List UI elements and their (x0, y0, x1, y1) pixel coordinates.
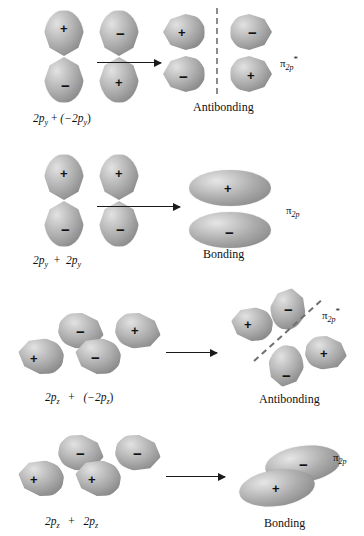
transformation-arrow (166, 476, 225, 477)
sign-plus: + (60, 167, 68, 180)
equation-right-subscript: y (78, 260, 82, 269)
equation-right-tail: ) (87, 112, 91, 124)
equation-right-term: (−2p (60, 112, 83, 124)
equation-left-subscript: z (57, 521, 60, 530)
mo-lobe-left (229, 304, 275, 344)
mo-label-pi-2p-star: π2p* (322, 306, 340, 324)
mo-label-subscript: 2p (339, 457, 347, 466)
sign-minus: − (116, 222, 125, 237)
sign-minus: − (282, 368, 291, 383)
mo-label-superscript: * (336, 306, 341, 316)
sign-minus: − (76, 446, 85, 461)
mo-label-subscript: 2p (286, 63, 294, 72)
sign-minus: − (116, 26, 125, 41)
transformation-arrow (97, 206, 180, 207)
sign-plus: + (30, 473, 38, 486)
diagram-row-antibonding-py: + − − + + − − + π2p* Antibonding (0, 0, 364, 134)
sign-minus: − (225, 225, 234, 240)
equation-right-term: (−2p (83, 391, 106, 403)
mo-label-superscript: * (294, 54, 299, 64)
diagram-row-bonding-py: + − + − + − π2p Bonding 2py + 2py (0, 134, 364, 268)
equation-right-term: 2p (66, 254, 78, 266)
equation-right-tail: ) (110, 391, 114, 403)
sign-plus: + (30, 352, 38, 365)
equation-left-subscript: z (57, 397, 60, 406)
orbital-formation-figure: + − − + + − − + π2p* Antibonding (0, 0, 364, 536)
sign-minus: − (284, 302, 293, 317)
equation-left-term: 2p (33, 254, 45, 266)
equation-operator: + (51, 112, 58, 124)
result-caption: Antibonding (259, 392, 320, 407)
equation-right-subscript: z (95, 521, 98, 530)
nodal-plane-dashed-line (216, 8, 218, 94)
transformation-arrow (166, 352, 217, 353)
sign-plus: + (178, 26, 186, 39)
sign-minus: − (179, 69, 188, 84)
sign-plus: + (115, 167, 123, 180)
sign-minus: − (133, 446, 142, 461)
sign-plus: + (272, 482, 280, 495)
sign-plus: + (247, 69, 255, 82)
mo-label-subscript: 2p (328, 315, 336, 324)
equation-left-subscript: y (45, 118, 49, 127)
mo-label-pi-2p: π2p (286, 201, 300, 219)
diagram-row-bonding-pz: + − + − − + π2p Bonding 2pz + 2pz (0, 410, 364, 536)
orbital-lobe (15, 334, 67, 377)
transformation-arrow (97, 62, 161, 63)
sign-minus: − (76, 324, 85, 339)
sign-plus: + (320, 347, 328, 360)
result-caption: Bonding (264, 516, 305, 531)
result-caption: Bonding (203, 247, 244, 262)
sign-minus: − (91, 350, 100, 365)
equation-operator: + (54, 254, 61, 266)
equation-label: 2pz + (−2pz) (45, 391, 113, 406)
equation-left-term: 2p (45, 391, 57, 403)
equation-right-term: 2p (83, 515, 95, 527)
sign-plus: + (224, 182, 232, 195)
sign-plus: + (60, 22, 68, 35)
sign-minus: − (248, 25, 257, 40)
equation-label: 2pz + 2pz (45, 515, 98, 530)
sign-plus: + (244, 318, 252, 331)
sign-plus: + (131, 324, 139, 337)
equation-label: 2py + 2py (33, 254, 81, 269)
sign-minus: − (61, 78, 70, 93)
mo-label-pi-2p-star: π2p* (280, 54, 298, 72)
sign-minus: − (299, 457, 308, 472)
diagram-row-antibonding-pz: + − − + + − − + π2p* Antibonding (0, 280, 364, 410)
mo-label-subscript: 2p (292, 210, 300, 219)
equation-label: 2py + (−2py) (33, 112, 91, 127)
equation-left-term: 2p (33, 112, 45, 124)
equation-operator: + (68, 515, 75, 527)
equation-left-subscript: y (45, 260, 49, 269)
equation-operator: + (68, 391, 75, 403)
sign-minus: − (61, 222, 70, 237)
mo-label-pi-2p: π2p (333, 448, 347, 466)
equation-left-term: 2p (45, 515, 57, 527)
sign-plus: + (88, 473, 96, 486)
result-caption: Antibonding (193, 100, 254, 115)
sign-plus: + (115, 76, 123, 89)
orbital-lobe (15, 456, 67, 499)
